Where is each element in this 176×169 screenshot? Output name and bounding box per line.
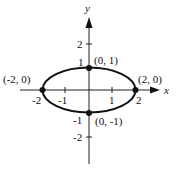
x-tick-label: -1 <box>58 94 67 106</box>
point-top <box>86 65 92 71</box>
y-tick-label: -1 <box>73 114 82 126</box>
point-label-top: (0, 1) <box>94 54 118 67</box>
point-label-right: (2, 0) <box>138 73 162 86</box>
point-label-bottom: (0, -1) <box>95 115 123 128</box>
y-axis-label: y <box>84 2 90 14</box>
point-left <box>40 87 46 93</box>
y-tick-label: 2 <box>77 38 83 50</box>
point-label-left: (-2, 0) <box>3 73 31 86</box>
y-tick-label: 1 <box>78 56 84 68</box>
x-tick-label: 1 <box>109 94 115 106</box>
x-axis-label: x <box>163 84 169 96</box>
ellipse-diagram: x y -2 -1 1 2 2 1 -1 -2 (0, 1) (-2, 0) (… <box>0 0 176 169</box>
y-tick-label: -2 <box>73 131 82 143</box>
x-tick-label: 2 <box>136 94 142 106</box>
y-axis-arrow-icon <box>86 17 93 28</box>
x-tick-label: -2 <box>32 94 41 106</box>
point-right <box>133 87 139 93</box>
x-axis-arrow-icon <box>150 87 160 94</box>
point-bottom <box>86 110 92 116</box>
